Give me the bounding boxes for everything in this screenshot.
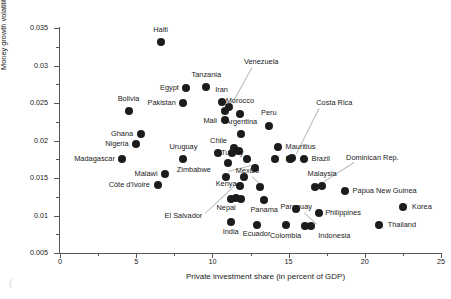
point-label: Mauritius <box>286 143 316 151</box>
point-label: Nepal <box>216 204 235 212</box>
point-label: Argentina <box>226 118 258 126</box>
point-label: Haiti <box>153 26 168 34</box>
point-label: Egypt <box>160 84 179 92</box>
y-tick-minor <box>56 159 60 160</box>
x-tick-label: 0 <box>45 257 75 266</box>
data-point <box>161 170 169 178</box>
y-tick-label: 0.025 <box>0 99 48 107</box>
x-tick-label: 25 <box>426 257 451 266</box>
x-tick-minor <box>174 253 175 256</box>
y-tick-label: 0.035 <box>0 24 48 32</box>
data-point <box>253 221 261 229</box>
point-label: Côte d'Ivoire <box>109 181 150 189</box>
point-label: Madagascar <box>74 155 115 163</box>
y-tick-label: 0.015 <box>0 174 48 182</box>
point-label: Dominican Rep. <box>346 154 399 162</box>
point-label: Paraguay <box>280 203 312 211</box>
data-point <box>260 196 268 204</box>
point-label: Ghana <box>111 130 133 138</box>
point-label: Peru <box>261 109 277 117</box>
point-label: Bolivia <box>118 95 140 103</box>
data-point <box>154 181 162 189</box>
point-label: Morocco <box>226 97 254 105</box>
data-point <box>375 221 383 229</box>
point-label: Fiji <box>285 155 294 163</box>
data-point <box>118 155 126 163</box>
x-tick-minor <box>98 253 99 256</box>
point-label: Venezuela <box>244 58 279 66</box>
point-label: Chile <box>210 137 227 145</box>
point-label: Nigeria <box>105 140 128 148</box>
y-tick-label: 0.01 <box>0 212 48 220</box>
x-tick-label: 5 <box>121 257 151 266</box>
point-label: Panama <box>250 206 278 214</box>
point-label: Thailand <box>388 221 416 229</box>
y-tick <box>54 216 60 217</box>
data-point <box>237 130 245 138</box>
y-tick-label: 0.02 <box>0 137 48 145</box>
data-point <box>157 38 165 46</box>
x-tick-minor <box>327 253 328 256</box>
point-label: Tanzania <box>192 71 222 79</box>
y-tick <box>54 178 60 179</box>
point-label: Mali <box>203 117 217 125</box>
point-label: Mexico <box>236 167 259 175</box>
point-label: Indonesia <box>318 232 350 240</box>
x-tick-minor <box>403 253 404 256</box>
data-point <box>237 195 245 203</box>
data-point <box>227 218 235 226</box>
y-tick-minor <box>56 234 60 235</box>
point-label: Kenya <box>216 180 237 188</box>
data-point <box>282 221 290 229</box>
x-axis-title: Private investment share (in percent of … <box>0 272 451 281</box>
x-axis-title-text: Private investment share (in percent of … <box>106 272 345 281</box>
data-point <box>307 222 315 230</box>
point-label: Pakistan <box>147 99 175 107</box>
data-point <box>202 83 210 91</box>
point-label: Iran <box>215 86 228 94</box>
point-label: Colombia <box>270 232 301 240</box>
point-label: Papua New Guinea <box>353 187 417 195</box>
point-label: Costa Rica <box>316 99 352 107</box>
data-point <box>311 183 319 191</box>
x-tick-label: 10 <box>197 257 227 266</box>
data-point <box>243 155 251 163</box>
data-point <box>179 99 187 107</box>
y-tick <box>54 28 60 29</box>
data-point <box>236 182 244 190</box>
y-tick-minor <box>56 122 60 123</box>
data-point <box>315 209 323 217</box>
y-tick-minor <box>56 84 60 85</box>
data-point <box>256 183 264 191</box>
x-tick-minor <box>251 253 252 256</box>
data-point <box>271 155 279 163</box>
data-point <box>182 84 190 92</box>
point-label: Malaysia <box>308 170 337 178</box>
data-point <box>179 155 187 163</box>
point-label: Ecuador <box>243 230 271 238</box>
point-label: Philippines <box>325 209 361 217</box>
y-tick-minor <box>56 47 60 48</box>
point-label: Korea <box>412 203 432 211</box>
point-label: Brazil <box>311 155 329 163</box>
y-tick-label: 0.005 <box>0 249 48 257</box>
y-tick <box>54 66 60 67</box>
point-label: Turkey <box>221 149 243 157</box>
y-tick <box>54 103 60 104</box>
x-tick-label: 15 <box>274 257 304 266</box>
data-point <box>125 107 133 115</box>
point-label: Zimbabwe <box>177 166 211 174</box>
data-point <box>132 140 140 148</box>
data-point <box>318 182 326 190</box>
point-label: Malawi <box>135 170 158 178</box>
corner-artifact: ( <box>9 279 12 288</box>
data-point <box>274 143 282 151</box>
data-point <box>399 203 407 211</box>
data-point <box>224 159 232 167</box>
data-point <box>265 122 273 130</box>
data-point <box>341 187 349 195</box>
y-axis-title: Money growth volatility 1/ <box>0 0 8 70</box>
y-tick <box>54 141 60 142</box>
point-label: India <box>223 228 239 236</box>
x-tick-label: 20 <box>350 257 380 266</box>
